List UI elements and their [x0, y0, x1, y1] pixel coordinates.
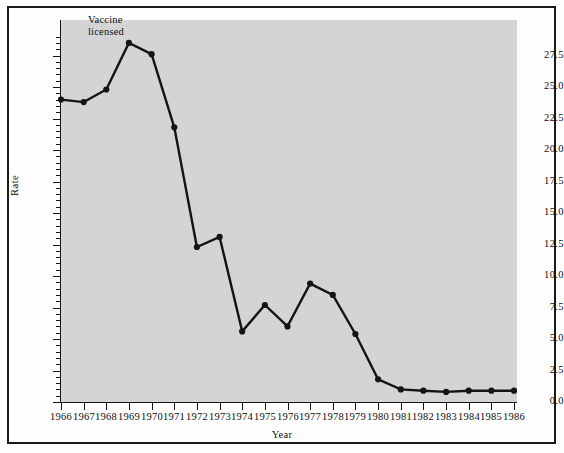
data-point-1970	[149, 51, 155, 57]
data-point-1975	[262, 302, 268, 308]
series-polyline	[61, 43, 514, 392]
data-point-1984	[466, 388, 472, 394]
data-point-1967	[81, 99, 87, 105]
data-point-1977	[307, 281, 313, 287]
data-point-1971	[171, 124, 177, 130]
data-point-1974	[239, 328, 245, 334]
data-point-1985	[488, 388, 494, 394]
data-point-1966	[58, 97, 64, 103]
data-point-1986	[511, 388, 517, 394]
data-point-1969	[126, 40, 132, 46]
data-point-1982	[420, 388, 426, 394]
series-markers	[58, 40, 517, 395]
chart-figure: 0.02.55.07.510.012.515.017.520.022.525.0…	[0, 0, 564, 453]
data-point-1973	[217, 234, 223, 240]
data-point-1968	[103, 86, 109, 92]
data-point-1980	[375, 376, 381, 382]
data-point-1972	[194, 244, 200, 250]
data-point-1978	[330, 292, 336, 298]
data-point-1979	[352, 331, 358, 337]
data-series-line	[0, 0, 564, 453]
data-point-1983	[443, 389, 449, 395]
data-point-1976	[284, 323, 290, 329]
data-point-1981	[398, 386, 404, 392]
